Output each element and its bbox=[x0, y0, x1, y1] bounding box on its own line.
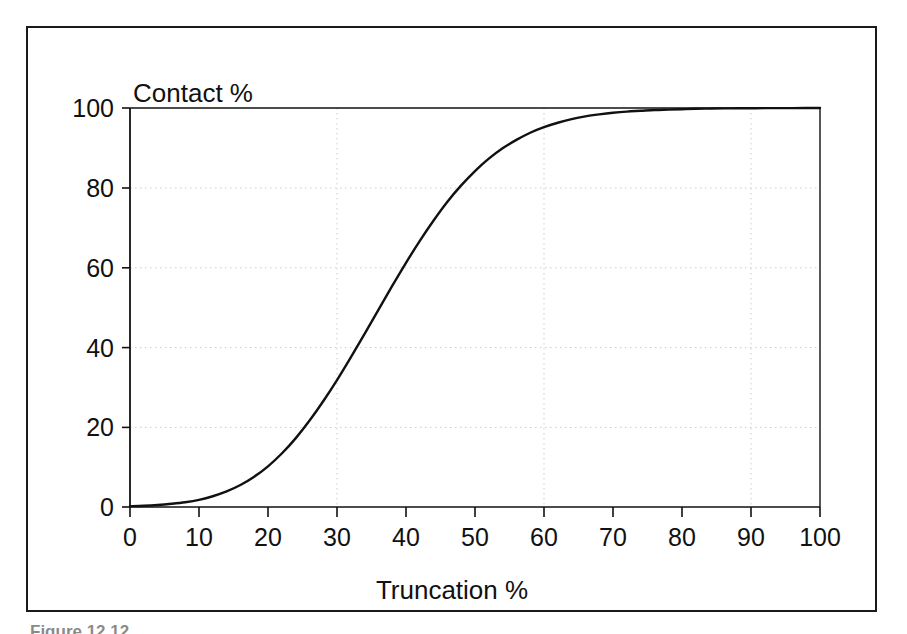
y-tick-label-60: 60 bbox=[58, 255, 114, 280]
horizontal-gridlines bbox=[130, 188, 820, 427]
x-tick-label-0: 0 bbox=[123, 525, 137, 550]
y-axis-title: Contact % bbox=[133, 80, 253, 106]
y-tick-label-100: 100 bbox=[58, 96, 114, 121]
y-axis-ticks bbox=[122, 108, 130, 507]
x-tick-label-70: 70 bbox=[599, 525, 627, 550]
chart-plot-area: 0 20 40 60 80 100 0 10 20 30 40 50 60 70… bbox=[28, 28, 879, 614]
x-tick-label-10: 10 bbox=[185, 525, 213, 550]
figure-caption: Figure 12.12 bbox=[30, 622, 129, 634]
x-tick-label-90: 90 bbox=[737, 525, 765, 550]
x-tick-label-50: 50 bbox=[461, 525, 489, 550]
y-tick-label-40: 40 bbox=[58, 335, 114, 360]
x-tick-label-100: 100 bbox=[799, 525, 841, 550]
data-series-line bbox=[130, 108, 820, 506]
vertical-gridlines bbox=[337, 108, 751, 507]
x-tick-label-40: 40 bbox=[392, 525, 420, 550]
y-tick-label-0: 0 bbox=[58, 495, 114, 520]
x-tick-label-30: 30 bbox=[323, 525, 351, 550]
x-tick-label-20: 20 bbox=[254, 525, 282, 550]
y-tick-label-20: 20 bbox=[58, 415, 114, 440]
y-tick-label-80: 80 bbox=[58, 176, 114, 201]
figure-frame: 0 20 40 60 80 100 0 10 20 30 40 50 60 70… bbox=[26, 26, 877, 612]
x-tick-label-80: 80 bbox=[668, 525, 696, 550]
x-axis-title: Truncation % bbox=[376, 577, 528, 603]
x-axis-ticks bbox=[130, 507, 820, 517]
plot-frame bbox=[130, 108, 820, 507]
x-tick-label-60: 60 bbox=[530, 525, 558, 550]
